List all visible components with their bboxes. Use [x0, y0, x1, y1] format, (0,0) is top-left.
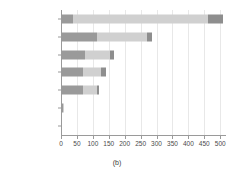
y-axis-line: [61, 10, 62, 136]
x-tick-mark: [188, 136, 189, 139]
category-row: question: [61, 81, 225, 99]
x-tick-label: 500: [215, 140, 226, 148]
category-row: suggestion: [61, 46, 225, 64]
bar-segment: [208, 14, 223, 23]
x-tick-label: 150: [103, 140, 114, 148]
bar-segment: [61, 14, 73, 23]
bar-segment: [110, 50, 115, 59]
x-tick-label: 450: [199, 140, 210, 148]
bar-segment: [83, 68, 101, 77]
x-tick-label: 200: [119, 140, 130, 148]
bar-segment: [83, 86, 97, 95]
x-tick-label: 250: [135, 140, 146, 148]
category-row: agreement: [61, 64, 225, 82]
bar-agreement: [61, 68, 106, 77]
category-row: disagreement: [61, 117, 225, 135]
x-tick-mark: [61, 136, 62, 139]
bar-shortcoming: [61, 32, 152, 41]
x-tick-mark: [93, 136, 94, 139]
bar-segment: [73, 14, 208, 23]
category-row: fact: [61, 10, 225, 28]
x-tick-mark: [220, 136, 221, 139]
bar-segment: [101, 68, 105, 77]
bar-segment: [63, 104, 64, 113]
x-tick-label: 50: [73, 140, 80, 148]
x-axis-line: [61, 135, 226, 136]
bar-segment: [97, 86, 99, 95]
bar-suggestion: [61, 50, 114, 59]
bar-segment: [61, 86, 83, 95]
bar-segment: [97, 32, 147, 41]
x-tick-mark: [204, 136, 205, 139]
category-row: shortcoming: [61, 28, 225, 46]
bar-segment: [85, 50, 110, 59]
bar-segment: [147, 32, 152, 41]
x-tick-mark: [109, 136, 110, 139]
x-tick-label: 350: [167, 140, 178, 148]
x-tick-mark: [125, 136, 126, 139]
x-tick-mark: [157, 136, 158, 139]
x-tick-label: 300: [151, 140, 162, 148]
bar-segment: [61, 50, 85, 59]
x-tick-label: 100: [87, 140, 98, 148]
category-row: other: [61, 99, 225, 117]
bar-segment: [61, 32, 97, 41]
bar-fact: [61, 14, 223, 23]
plot-area: factshortcomingsuggestionagreementquesti…: [61, 10, 225, 135]
x-tick-label: 400: [183, 140, 194, 148]
figure-caption: (b): [0, 158, 234, 167]
x-tick-mark: [172, 136, 173, 139]
bar-segment: [61, 68, 83, 77]
x-tick-mark: [77, 136, 78, 139]
x-tick-mark: [141, 136, 142, 139]
chart-figure: factshortcomingsuggestionagreementquesti…: [0, 0, 234, 177]
bar-question: [61, 86, 99, 95]
x-tick-label: 0: [59, 140, 63, 148]
